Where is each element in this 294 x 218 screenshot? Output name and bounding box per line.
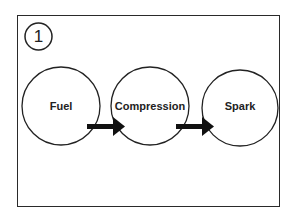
node-label-fuel: Fuel: [50, 100, 73, 112]
node-label-spark: Spark: [225, 100, 256, 112]
arrow-icon: [87, 117, 125, 136]
node-label-compression: Compression: [115, 100, 185, 112]
step-number: 1: [34, 27, 43, 47]
arrow-icon: [176, 117, 214, 136]
